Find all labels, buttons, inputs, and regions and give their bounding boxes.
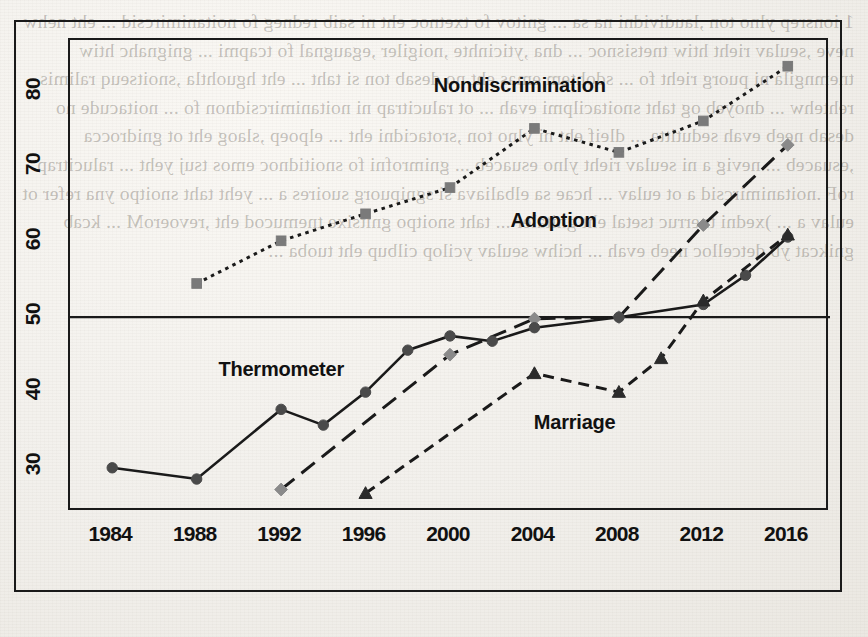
data-point <box>107 463 117 473</box>
data-point <box>361 209 371 219</box>
data-point <box>487 336 497 346</box>
y-tick-60: 60 <box>21 216 45 262</box>
y-tick-70: 70 <box>21 141 45 187</box>
data-point <box>360 387 370 397</box>
data-point <box>614 312 624 322</box>
data-point <box>614 148 624 158</box>
data-point <box>318 420 328 430</box>
data-point <box>403 345 413 355</box>
x-tick-1996: 1996 <box>331 522 397 546</box>
y-tick-50: 50 <box>21 291 45 337</box>
data-point <box>655 352 668 364</box>
x-tick-2004: 2004 <box>499 522 565 546</box>
chart-svg <box>70 40 830 512</box>
data-point <box>445 331 455 341</box>
chart-plot-area <box>68 38 828 510</box>
x-tick-1992: 1992 <box>246 522 312 546</box>
data-point <box>445 183 455 193</box>
y-tick-80: 80 <box>21 66 45 112</box>
x-tick-2000: 2000 <box>415 522 481 546</box>
x-tick-1984: 1984 <box>77 522 143 546</box>
x-tick-2008: 2008 <box>584 522 650 546</box>
y-tick-40: 40 <box>21 366 45 412</box>
x-tick-2012: 2012 <box>668 522 734 546</box>
series-label-marriage: Marriage <box>534 411 616 434</box>
series-marriage <box>359 228 794 498</box>
data-point <box>276 404 286 414</box>
x-tick-2016: 2016 <box>753 522 819 546</box>
data-point <box>740 270 750 280</box>
data-point <box>530 124 540 134</box>
series-label-adoption: Adoption <box>510 209 596 232</box>
series-label-nondiscrimination: Nondiscrimination <box>434 74 606 97</box>
x-tick-1988: 1988 <box>162 522 228 546</box>
y-tick-30: 30 <box>21 441 45 487</box>
data-point <box>191 474 201 484</box>
data-point <box>529 322 539 332</box>
data-point <box>699 116 709 126</box>
data-point <box>192 279 202 289</box>
series-label-thermometer: Thermometer <box>218 358 344 381</box>
data-point <box>528 367 541 379</box>
data-point <box>783 61 793 71</box>
data-point <box>276 236 286 246</box>
